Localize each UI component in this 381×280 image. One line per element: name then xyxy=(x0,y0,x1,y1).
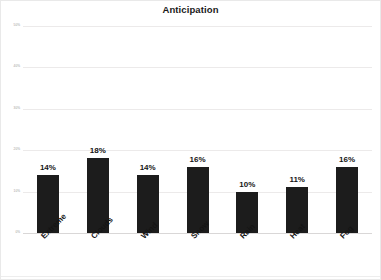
bar-group[interactable]: 14% xyxy=(137,26,159,233)
chart-container: Anticipation 50%40%30%20%10%0% 14%18%14%… xyxy=(0,0,381,280)
bar-group[interactable]: 18% xyxy=(87,26,109,233)
bar-value-label: 14% xyxy=(40,164,56,172)
bar-value-label: 18% xyxy=(90,147,106,155)
bar-group[interactable]: 16% xyxy=(187,26,209,233)
bottom-divider xyxy=(1,276,380,277)
category-axis: ExtremeCloudsWindSnowRainHeatFog xyxy=(23,235,372,280)
bar-value-label: 16% xyxy=(339,156,355,164)
bar-group[interactable]: 10% xyxy=(236,26,258,233)
bar-group[interactable]: 11% xyxy=(286,26,308,233)
bar[interactable] xyxy=(336,167,358,233)
plot-area: 50%40%30%20%10%0% 14%18%14%16%10%11%16% xyxy=(23,26,372,233)
y-axis-tick-label: 50% xyxy=(14,24,20,27)
bar-group[interactable]: 14% xyxy=(37,26,59,233)
y-axis-tick-label: 10% xyxy=(14,190,20,193)
y-axis-tick-label: 30% xyxy=(14,107,20,110)
bar-value-label: 16% xyxy=(189,156,205,164)
y-axis-tick-label: 20% xyxy=(14,149,20,152)
bar-group[interactable]: 16% xyxy=(336,26,358,233)
chart-title: Anticipation xyxy=(1,4,380,15)
y-axis-tick-label: 40% xyxy=(14,66,20,69)
bar-value-label: 11% xyxy=(289,176,305,184)
bar-value-label: 10% xyxy=(239,181,255,189)
y-axis-tick-label: 0% xyxy=(15,231,20,234)
bars-layer: 14%18%14%16%10%11%16% xyxy=(23,26,372,233)
bar-value-label: 14% xyxy=(140,164,156,172)
